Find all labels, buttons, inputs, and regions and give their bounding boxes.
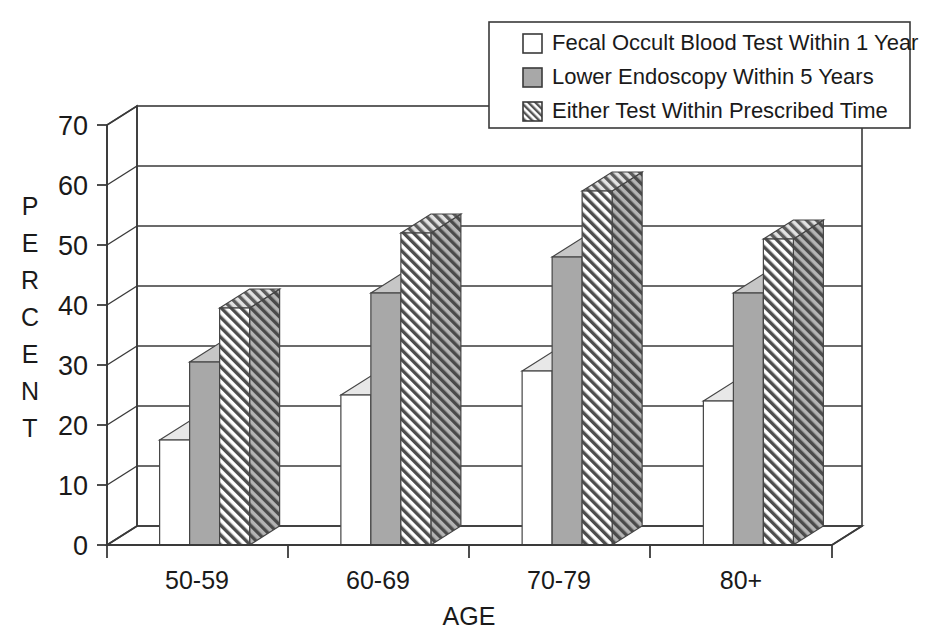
bar-front-face [733, 293, 763, 545]
bar-50-59-series-3 [220, 289, 280, 545]
bar-side-face [431, 214, 461, 545]
y-axis-title: P E R C E N T [21, 192, 39, 442]
y-title-letter-1: E [22, 229, 39, 257]
bar-60-69-series-3 [401, 214, 461, 545]
bars-layer [160, 172, 824, 545]
bar-side-face [612, 172, 642, 545]
legend-label-0: Fecal Occult Blood Test Within 1 Year [552, 30, 918, 55]
y-depth-70 [107, 106, 137, 125]
bar-front-face [160, 440, 190, 545]
bar-group-60-69 [341, 214, 461, 545]
bar-front-face [371, 293, 401, 545]
bar-front-face [582, 191, 612, 545]
bar-front-face [220, 308, 250, 545]
bar-front-face [703, 401, 733, 545]
x-axis: 50-59 60-69 70-79 80+ AGE [107, 545, 832, 630]
x-category-label-3: 80+ [720, 566, 762, 594]
bar-80+-series-3 [763, 220, 823, 545]
bar-front-face [763, 239, 793, 545]
bar-front-face [341, 395, 371, 545]
legend-swatch-either-test [523, 102, 542, 121]
bar-front-face [522, 371, 552, 545]
y-title-letter-4: E [22, 340, 39, 368]
y-title-letter-2: R [21, 266, 39, 294]
y-tick-label-50: 50 [58, 231, 88, 261]
bar-side-face [793, 220, 823, 545]
bar-front-face [190, 362, 220, 545]
left-wall [107, 106, 137, 545]
chart-container: 0 10 20 30 40 50 60 70 P E R C E N T [0, 0, 935, 635]
y-depth-40 [107, 286, 137, 305]
bar-70-79-series-3 [582, 172, 642, 545]
y-depth-20 [107, 406, 137, 425]
y-tick-label-60: 60 [58, 171, 88, 201]
x-category-label-2: 70-79 [527, 566, 591, 594]
y-title-letter-6: T [22, 414, 37, 442]
y-depth-50 [107, 226, 137, 245]
bar-chart-3d: 0 10 20 30 40 50 60 70 P E R C E N T [0, 0, 935, 635]
legend-swatch-lower-endoscopy [523, 68, 542, 87]
floor-right-edge [832, 526, 862, 545]
y-tick-label-0: 0 [73, 531, 88, 561]
bar-front-face [401, 233, 431, 545]
y-depth-60 [107, 166, 137, 185]
y-title-letter-3: C [21, 303, 39, 331]
legend-label-2: Either Test Within Prescribed Time [552, 98, 888, 123]
y-tick-label-20: 20 [58, 411, 88, 441]
y-tick-label-10: 10 [58, 471, 88, 501]
y-tick-label-40: 40 [58, 291, 88, 321]
y-tick-label-30: 30 [58, 351, 88, 381]
chart-legend: Fecal Occult Blood Test Within 1 Year Lo… [489, 22, 918, 128]
legend-swatch-fecal-occult-blood-test [523, 34, 542, 53]
x-category-label-1: 60-69 [346, 566, 410, 594]
x-category-label-0: 50-59 [165, 566, 229, 594]
bar-front-face [552, 257, 582, 545]
bar-side-face [250, 289, 280, 545]
y-title-letter-5: N [21, 377, 39, 405]
y-title-letter-0: P [22, 192, 39, 220]
y-depth-10 [107, 466, 137, 485]
y-tick-label-70: 70 [58, 111, 88, 141]
x-axis-title: AGE [443, 602, 496, 630]
legend-label-1: Lower Endoscopy Within 5 Years [552, 64, 874, 89]
bar-group-50-59 [160, 289, 280, 545]
y-depth-30 [107, 346, 137, 365]
bar-group-80+ [703, 220, 823, 545]
bar-group-70-79 [522, 172, 642, 545]
